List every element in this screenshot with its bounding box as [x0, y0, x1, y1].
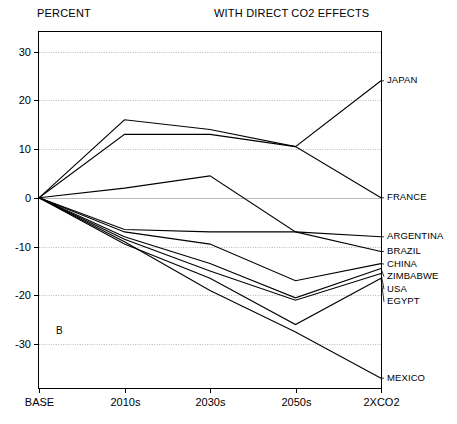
- y-tick-label: 30: [5, 46, 31, 58]
- leader-line: [381, 264, 384, 265]
- series-label-brazil: BRAZIL: [387, 245, 421, 256]
- series-line-france: [39, 134, 381, 197]
- x-tick-label: 2XCO2: [347, 396, 417, 408]
- series-line-argentina: [39, 176, 381, 237]
- series-label-china: CHINA: [387, 258, 417, 269]
- y-tick-label: 10: [5, 143, 31, 155]
- series-label-egypt: EGYPT: [387, 295, 420, 306]
- series-label-japan: JAPAN: [387, 74, 417, 85]
- x-tick-label: 2010s: [91, 396, 161, 408]
- series-lines-group: [39, 81, 381, 378]
- x-tick-label: 2050s: [262, 396, 332, 408]
- series-label-argentina: ARGENTINA: [387, 230, 443, 241]
- y-tick-label: 0: [5, 192, 31, 204]
- y-tick-label: -10: [5, 241, 31, 253]
- x-tick-label: BASE: [5, 396, 75, 408]
- plot-svg: [0, 0, 457, 424]
- x-tick-label: 2030s: [176, 396, 246, 408]
- series-label-france: FRANCE: [387, 191, 427, 202]
- y-tick-label: 20: [5, 94, 31, 106]
- series-line-mexico: [39, 198, 381, 378]
- gridlines-group: [39, 53, 381, 345]
- y-tick-label: -30: [5, 338, 31, 350]
- series-label-zimbabwe: ZIMBABWE: [387, 270, 438, 281]
- series-line-usa: [39, 198, 381, 300]
- chart-figure: PERCENT WITH DIRECT CO2 EFFECTS B 302010…: [0, 0, 457, 424]
- plot-frame: [39, 32, 382, 389]
- series-label-mexico: MEXICO: [387, 372, 425, 383]
- series-line-japan: [39, 81, 381, 198]
- y-tick-label: -20: [5, 289, 31, 301]
- series-label-usa: USA: [387, 283, 407, 294]
